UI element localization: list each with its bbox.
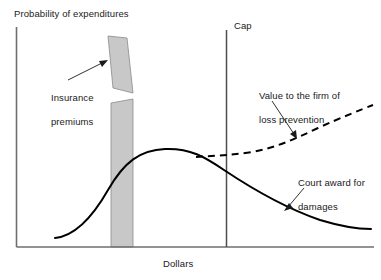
insurance-premiums-line-2: premiums xyxy=(51,116,94,127)
court-award-annotation: Court award for damages xyxy=(287,165,365,225)
x-axis-title: Dollars xyxy=(163,258,193,270)
insurance-band-lower xyxy=(111,99,133,247)
insurance-premiums-arrowhead xyxy=(99,60,108,67)
insurance-premiums-annotation: Insurance premiums xyxy=(40,80,94,140)
insurance-band-upper xyxy=(108,36,133,93)
value-to-firm-line-2: loss prevention xyxy=(259,114,324,125)
value-to-firm-annotation: Value to the firm of loss prevention xyxy=(248,78,340,138)
value-to-firm-line-1: Value to the firm of xyxy=(259,90,340,101)
cap-annotation: Cap xyxy=(234,20,252,32)
chart-figure: Probability of expenditures Dollars Insu… xyxy=(0,0,381,280)
chart-canvas xyxy=(0,0,381,280)
y-axis-title: Probability of expenditures xyxy=(14,8,129,20)
court-award-line-2: damages xyxy=(298,201,338,212)
court-award-line-1: Court award for xyxy=(298,177,365,188)
insurance-premiums-line-1: Insurance xyxy=(51,92,94,103)
insurance-premiums-leader xyxy=(68,62,104,80)
